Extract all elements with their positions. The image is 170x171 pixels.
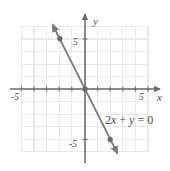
- equation-plus-sign: +: [116, 113, 129, 127]
- x-axis-tick-label-minus-5: -5: [11, 93, 19, 103]
- y-axis-label: y: [93, 16, 98, 27]
- x-axis-label: x: [157, 92, 162, 103]
- x-axis-tick-label-5: 5: [139, 93, 144, 103]
- equation-annotation: 2x + y = 0: [105, 114, 153, 126]
- point-marker: [57, 36, 62, 41]
- y-axis-tick-label-5: 5: [73, 38, 78, 48]
- coordinate-plane-figure: y x 5 -5 -5 5 2x + y = 0: [0, 0, 170, 171]
- graph-canvas: [0, 0, 170, 171]
- equation-equals-zero: = 0: [134, 113, 153, 127]
- point-marker: [108, 137, 113, 142]
- point-marker: [82, 86, 87, 91]
- y-axis-tick-label-minus-5: -5: [69, 140, 77, 150]
